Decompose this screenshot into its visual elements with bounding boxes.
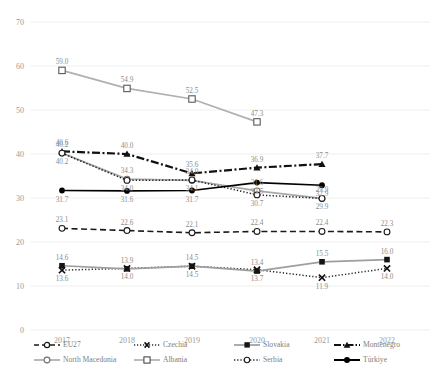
data-point-marker bbox=[254, 119, 260, 125]
data-label: 16.0 bbox=[381, 248, 394, 256]
legend-swatch-serbia bbox=[234, 355, 260, 365]
series-layer bbox=[58, 67, 390, 281]
legend-row-2: North Macedonia Albania Serbia Türkiye bbox=[34, 353, 434, 366]
data-point-marker bbox=[189, 230, 195, 236]
data-point-marker bbox=[319, 229, 325, 235]
legend-label: North Macedonia bbox=[63, 355, 116, 364]
data-label: 31.7 bbox=[186, 196, 199, 204]
data-label: 47.3 bbox=[251, 110, 264, 118]
series-line bbox=[62, 260, 387, 271]
data-point-marker bbox=[124, 266, 130, 272]
data-point-marker bbox=[124, 228, 130, 234]
legend-item-north-macedonia[interactable]: North Macedonia bbox=[34, 355, 134, 365]
data-label: 33.5 bbox=[251, 188, 264, 196]
legend-item-albania[interactable]: Albania bbox=[134, 355, 234, 365]
y-tick-label: 20 bbox=[16, 238, 24, 247]
data-label: 22.4 bbox=[316, 219, 329, 227]
data-label: 22.6 bbox=[121, 219, 134, 227]
data-point-marker bbox=[384, 257, 390, 263]
data-label: 31.6 bbox=[121, 196, 134, 204]
y-tick-label: 40 bbox=[16, 150, 24, 159]
data-point-marker bbox=[189, 177, 195, 183]
legend-swatch-albania bbox=[134, 355, 160, 365]
data-label: 14.0 bbox=[381, 273, 394, 281]
y-tick-label: 60 bbox=[16, 62, 24, 71]
legend-label: Türkiye bbox=[363, 355, 387, 364]
legend-label: EU27 bbox=[63, 340, 81, 349]
data-point-marker bbox=[124, 178, 130, 184]
data-label: 13.6 bbox=[56, 275, 69, 283]
data-label: 54.9 bbox=[121, 76, 134, 84]
gridlines bbox=[30, 22, 430, 330]
series-line bbox=[62, 70, 257, 121]
data-label: 31.6 bbox=[251, 179, 264, 187]
data-point-marker bbox=[254, 268, 260, 274]
series-eu27 bbox=[59, 225, 390, 235]
chart-svg: 70 60 50 40 30 20 10 0 2017 2018 2019 20… bbox=[0, 0, 440, 385]
legend-label: Serbia bbox=[263, 355, 282, 364]
legend-row-1: EU27 Czechia Slovakia Montenegro bbox=[34, 338, 434, 351]
legend-item-czechia[interactable]: Czechia bbox=[134, 340, 234, 350]
data-label: 32.9 bbox=[316, 190, 329, 198]
data-point-marker bbox=[189, 96, 195, 102]
legend-item-slovakia[interactable]: Slovakia bbox=[234, 340, 334, 350]
legend-swatch-slovakia bbox=[234, 340, 260, 350]
legend-item-turkiye[interactable]: Türkiye bbox=[334, 355, 434, 365]
data-label: 22.4 bbox=[251, 219, 264, 227]
series-line bbox=[62, 228, 387, 232]
legend-swatch-eu27 bbox=[34, 340, 60, 350]
data-label: 13.4 bbox=[251, 259, 264, 267]
series-czechia bbox=[59, 263, 390, 281]
data-label: 14.5 bbox=[186, 271, 199, 279]
legend: EU27 Czechia Slovakia Montenegro North M… bbox=[34, 338, 434, 366]
y-tick-label: 0 bbox=[20, 326, 24, 335]
data-label: 14.5 bbox=[186, 254, 199, 262]
data-label: 52.5 bbox=[186, 87, 199, 95]
data-point-marker bbox=[59, 225, 65, 231]
y-tick-label: 50 bbox=[16, 106, 24, 115]
data-label: 34.3 bbox=[121, 167, 134, 175]
data-label: 40.2 bbox=[56, 158, 69, 166]
data-label: 34.0 bbox=[186, 168, 199, 176]
data-labels-layer: 23.122.622.122.422.422.313.614.014.513.7… bbox=[56, 58, 394, 290]
y-tick-label: 10 bbox=[16, 282, 24, 291]
data-point-marker bbox=[384, 229, 390, 235]
legend-item-serbia[interactable]: Serbia bbox=[234, 355, 334, 365]
data-label: 22.3 bbox=[381, 220, 394, 228]
data-label: 37.7 bbox=[316, 152, 329, 160]
data-label: 40.2 bbox=[56, 141, 69, 149]
legend-label: Montenegro bbox=[363, 340, 400, 349]
data-point-marker bbox=[319, 259, 325, 265]
data-label: 34.1 bbox=[186, 185, 199, 193]
data-label: 59.0 bbox=[56, 58, 69, 66]
data-label: 36.9 bbox=[251, 156, 264, 164]
data-label: 30.7 bbox=[251, 200, 264, 208]
y-tick-label: 30 bbox=[16, 194, 24, 203]
y-tick-label: 70 bbox=[16, 18, 24, 27]
series-slovakia bbox=[59, 257, 390, 274]
legend-swatch-north-macedonia bbox=[34, 355, 60, 365]
data-label: 23.1 bbox=[56, 216, 69, 224]
line-chart: 70 60 50 40 30 20 10 0 2017 2018 2019 20… bbox=[0, 0, 440, 385]
data-label: 40.0 bbox=[121, 142, 134, 150]
legend-label: Czechia bbox=[163, 340, 187, 349]
data-label: 13.7 bbox=[251, 275, 264, 283]
data-label: 22.1 bbox=[186, 221, 199, 229]
data-label: 14.0 bbox=[121, 273, 134, 281]
legend-label: Albania bbox=[163, 355, 187, 364]
data-point-marker bbox=[124, 85, 130, 91]
legend-item-montenegro[interactable]: Montenegro bbox=[334, 340, 434, 350]
data-label: 34.0 bbox=[121, 185, 134, 193]
legend-label: Slovakia bbox=[263, 340, 290, 349]
data-label: 11.9 bbox=[316, 283, 329, 291]
data-point-marker bbox=[59, 150, 65, 156]
legend-swatch-turkiye bbox=[334, 355, 360, 365]
data-point-marker bbox=[254, 229, 260, 235]
legend-swatch-czechia bbox=[134, 340, 160, 350]
data-point-marker bbox=[59, 67, 65, 73]
data-label: 14.6 bbox=[56, 254, 69, 262]
data-point-marker bbox=[59, 188, 65, 194]
data-label: 31.7 bbox=[56, 196, 69, 204]
legend-item-eu27[interactable]: EU27 bbox=[34, 340, 134, 350]
data-point-marker bbox=[189, 263, 195, 269]
